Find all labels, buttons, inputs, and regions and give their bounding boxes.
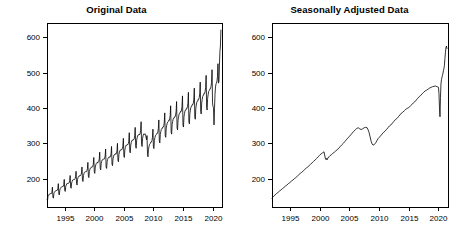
y-tick-label: 200 — [252, 175, 266, 184]
plot-area-original: 200300400500600199520002005201020152020 — [0, 0, 233, 244]
x-tick-label: 1995 — [57, 214, 75, 223]
x-tick-label: 2020 — [205, 214, 223, 223]
x-tick-label: 2010 — [371, 214, 389, 223]
series-line — [272, 46, 447, 198]
x-tick-label: 2010 — [145, 214, 163, 223]
x-tick-label: 2005 — [116, 214, 134, 223]
y-tick-label: 400 — [27, 104, 41, 113]
series-line — [47, 30, 221, 201]
x-tick-label: 2000 — [312, 214, 330, 223]
y-tick-label: 400 — [252, 104, 266, 113]
x-tick-label: 2015 — [175, 214, 193, 223]
chart-panel-seasonally-adjusted: Seasonally Adjusted Data 200300400500600… — [233, 0, 466, 244]
x-tick-label: 2015 — [401, 214, 419, 223]
x-tick-label: 2000 — [86, 214, 104, 223]
y-tick-label: 500 — [252, 69, 266, 78]
y-tick-label: 300 — [252, 139, 266, 148]
chart-panel-original: Original Data 20030040050060019952000200… — [0, 0, 233, 244]
y-tick-label: 600 — [252, 33, 266, 42]
y-tick-label: 300 — [27, 139, 41, 148]
x-tick-label: 1995 — [282, 214, 300, 223]
y-tick-label: 500 — [27, 69, 41, 78]
x-tick-label: 2005 — [341, 214, 359, 223]
y-tick-label: 600 — [27, 33, 41, 42]
plot-area-seasonally-adjusted: 200300400500600199520002005201020152020 — [233, 0, 466, 244]
y-tick-label: 200 — [27, 175, 41, 184]
figure-canvas: Original Data 20030040050060019952000200… — [0, 0, 466, 244]
x-tick-label: 2020 — [430, 214, 448, 223]
